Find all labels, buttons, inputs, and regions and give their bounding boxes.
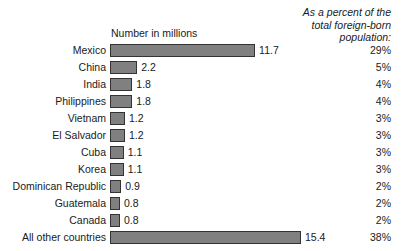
bar — [110, 163, 124, 176]
bar-value-label: 1.2 — [129, 128, 144, 145]
bar-percent-label: 29% — [331, 43, 391, 60]
bar-row-label: Vietnam — [0, 111, 106, 128]
bar-value-label: 1.1 — [128, 162, 143, 179]
bar-row-label: Canada — [0, 213, 106, 230]
bar-row-label: Guatemala — [0, 196, 106, 213]
bar — [110, 231, 301, 244]
bar — [110, 146, 124, 159]
bar-value-label: 1.1 — [128, 145, 143, 162]
bar-percent-label: 3% — [331, 162, 391, 179]
bar-row: Korea1.13% — [0, 162, 406, 179]
bar — [110, 112, 125, 125]
bar-row: India1.84% — [0, 77, 406, 94]
bar-percent-label: 4% — [331, 94, 391, 111]
bar-row-label: Dominican Republic — [0, 179, 106, 196]
bar-percent-label: 4% — [331, 77, 391, 94]
bar-row: Mexico11.729% — [0, 43, 406, 60]
bar — [110, 61, 137, 74]
bar-row-label: All other countries — [0, 230, 106, 247]
bar-percent-label: 3% — [331, 111, 391, 128]
bar-row-label: El Salvador — [0, 128, 106, 145]
bar-chart: As a percent of the total foreign-born p… — [0, 0, 406, 251]
bar-percent-label: 2% — [331, 179, 391, 196]
bar-row: Canada0.82% — [0, 213, 406, 230]
bar-rows: Mexico11.729%China2.25%India1.84%Philipp… — [0, 43, 406, 247]
bar-value-label: 15.4 — [305, 230, 325, 247]
bar-row-label: India — [0, 77, 106, 94]
bar-value-label: 1.8 — [136, 94, 151, 111]
bar-row-label: Korea — [0, 162, 106, 179]
bar — [110, 129, 125, 142]
bar — [110, 214, 120, 227]
bar-value-label: 1.8 — [136, 77, 151, 94]
chart-axis-title: Number in millions — [111, 27, 197, 39]
bar-value-label: 0.8 — [124, 196, 139, 213]
bar-percent-label: 2% — [331, 213, 391, 230]
bar — [110, 180, 121, 193]
bar-value-label: 0.8 — [124, 213, 139, 230]
bar-row: Philippines1.84% — [0, 94, 406, 111]
bar-percent-label: 3% — [331, 128, 391, 145]
bar — [110, 95, 132, 108]
bar-row: Dominican Republic0.92% — [0, 179, 406, 196]
bar-value-label: 2.2 — [141, 60, 156, 77]
bar-percent-label: 2% — [331, 196, 391, 213]
bar-row: Vietnam1.23% — [0, 111, 406, 128]
bar — [110, 197, 120, 210]
bar-row: China2.25% — [0, 60, 406, 77]
bar-percent-label: 5% — [331, 60, 391, 77]
bar-row: Guatemala0.82% — [0, 196, 406, 213]
bar-value-label: 11.7 — [259, 43, 279, 60]
bar-row-label: Philippines — [0, 94, 106, 111]
bar-row: El Salvador1.23% — [0, 128, 406, 145]
bar-row-label: China — [0, 60, 106, 77]
percent-column-header: As a percent of the total foreign-born p… — [241, 6, 391, 44]
bar-percent-label: 3% — [331, 145, 391, 162]
bar — [110, 78, 132, 91]
bar-row: All other countries15.438% — [0, 230, 406, 247]
bar-value-label: 1.2 — [129, 111, 144, 128]
bar-row-label: Mexico — [0, 43, 106, 60]
bar-percent-label: 38% — [331, 230, 391, 247]
bar-row: Cuba1.13% — [0, 145, 406, 162]
bar-value-label: 0.9 — [125, 179, 140, 196]
bar-row-label: Cuba — [0, 145, 106, 162]
bar — [110, 44, 255, 57]
